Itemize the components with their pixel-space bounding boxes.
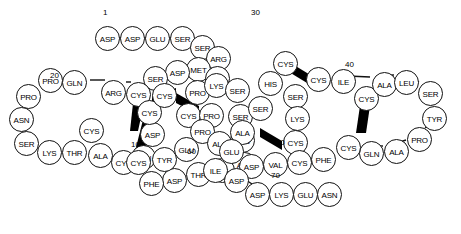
residue-circle[interactable]: LYS [285, 106, 310, 131]
residue-label: ASP [167, 177, 182, 185]
residue-label: PHE [316, 156, 332, 164]
residue-circle[interactable]: ASP [120, 26, 145, 51]
residue-circle[interactable]: CYS [336, 135, 361, 160]
residue-circle[interactable]: ASP [165, 60, 190, 85]
residue-label: ALA [93, 152, 108, 160]
residue-circle[interactable]: ASP [95, 26, 120, 51]
residue-circle[interactable]: SER [248, 96, 273, 121]
residue-label: ALA [377, 81, 392, 89]
position-label-40: 40 [345, 61, 354, 69]
residue-label: SER [19, 140, 35, 148]
residue-circle[interactable]: CYS [152, 83, 177, 108]
residue-label: CYS [359, 95, 375, 103]
residue-label: LYS [275, 191, 289, 199]
residue-label: PRO [194, 128, 211, 136]
residue-label: ILE [338, 78, 349, 86]
position-label-20: 20 [50, 72, 59, 80]
residue-circle[interactable]: ASN [317, 182, 342, 207]
residue-label: CYS [278, 60, 294, 68]
residue-label: PRO [189, 89, 206, 97]
residue-label: ASP [125, 35, 140, 43]
residue-circle[interactable]: ASP [140, 122, 165, 147]
residue-circle[interactable]: ARG [101, 80, 126, 105]
residue-circle[interactable]: ILE [331, 69, 356, 94]
residue-label: ALA [235, 129, 250, 137]
residue-label: ASP [100, 35, 115, 43]
residue-circle[interactable]: ALA [384, 139, 409, 164]
position-label-50: 50 [276, 139, 285, 147]
residue-label: SER [148, 75, 164, 83]
residue-label: CYS [157, 92, 173, 100]
residue-circle[interactable]: GLN [62, 70, 87, 95]
residue-circle[interactable]: PRO [407, 127, 432, 152]
residue-label: SER [253, 105, 269, 113]
residue-label: CYS [142, 109, 158, 117]
residue-label: GLN [67, 79, 83, 87]
residue-circle[interactable]: LYS [269, 182, 294, 207]
residue-label: LYS [43, 149, 57, 157]
residue-label: CYS [341, 144, 357, 152]
residue-circle[interactable]: THR [62, 140, 87, 165]
residue-label: TYR [427, 115, 442, 123]
residue-label: SER [230, 87, 246, 95]
protein-sequence-diagram: ASP ASP GLU SER SER ARG MET LYS ASP SER … [0, 0, 461, 234]
residue-label: CYS [131, 159, 147, 167]
residue-circle[interactable]: LYS [37, 140, 62, 165]
residue-circle[interactable]: SER [418, 81, 443, 106]
residue-label: PHE [144, 180, 160, 188]
residue-label: GLN [364, 150, 380, 158]
residue-label: ARG [105, 89, 122, 97]
residue-circle[interactable]: GLN [359, 141, 384, 166]
residue-label: LEU [399, 79, 414, 87]
residue-circle[interactable]: CYS [273, 51, 298, 76]
residue-label: THR [67, 149, 83, 157]
residue-circle[interactable]: CYS [287, 150, 312, 175]
residue-label: LYS [210, 82, 224, 90]
residue-label: ALA [389, 148, 404, 156]
position-label-10: 10 [131, 141, 140, 149]
residue-label: CYS [84, 127, 100, 135]
residue-circle[interactable]: LEU [394, 70, 419, 95]
residue-circle[interactable]: SER [225, 78, 250, 103]
residue-label: SER [175, 35, 191, 43]
residue-circle[interactable]: GLU [293, 182, 318, 207]
residue-label: PRO [20, 93, 37, 101]
residue-label: ARG [210, 55, 227, 63]
residue-label: GLU [150, 35, 166, 43]
residue-label: TYR [157, 156, 172, 164]
residue-circle[interactable]: CYS [79, 118, 104, 143]
residue-label: PRO [411, 136, 428, 144]
residue-label: SER [288, 93, 304, 101]
residue-circle[interactable]: ASN [9, 107, 34, 132]
residue-label: ASP [229, 177, 244, 185]
residue-label: HIS [264, 80, 277, 88]
residue-label: CYS [131, 91, 147, 99]
position-label-1: 1 [103, 9, 107, 17]
residue-circle[interactable]: PRO [16, 84, 41, 109]
residue-circle[interactable]: GLU [145, 26, 170, 51]
residue-label: VAL [269, 161, 283, 169]
residue-label: ASP [244, 163, 259, 171]
residue-circle[interactable]: CYS [306, 67, 331, 92]
residue-label: ASP [250, 191, 265, 199]
residue-label: ASP [170, 69, 185, 77]
residue-label: LYS [291, 115, 305, 123]
residue-label: ILE [210, 167, 221, 175]
residue-label: CYS [181, 112, 197, 120]
residue-circle[interactable]: ALA [88, 143, 113, 168]
residue-label: MET [190, 66, 206, 74]
residue-circle[interactable]: ASP [245, 182, 270, 207]
position-label-30: 30 [251, 9, 260, 17]
position-label-70: 70 [271, 172, 280, 180]
residue-label: CYS [288, 139, 304, 147]
residue-label: ASN [322, 191, 338, 199]
residue-circle[interactable]: PHE [139, 171, 164, 196]
residue-label: GLU [298, 191, 314, 199]
residue-circle[interactable]: SER [14, 131, 39, 156]
residue-label: GLU [224, 148, 240, 156]
residue-label: ASN [14, 116, 30, 124]
residue-circle[interactable]: PHE [311, 147, 336, 172]
residue-circle[interactable]: CYS [126, 150, 151, 175]
residue-circle[interactable]: TYR [422, 106, 447, 131]
residue-label: ASP [145, 131, 160, 139]
